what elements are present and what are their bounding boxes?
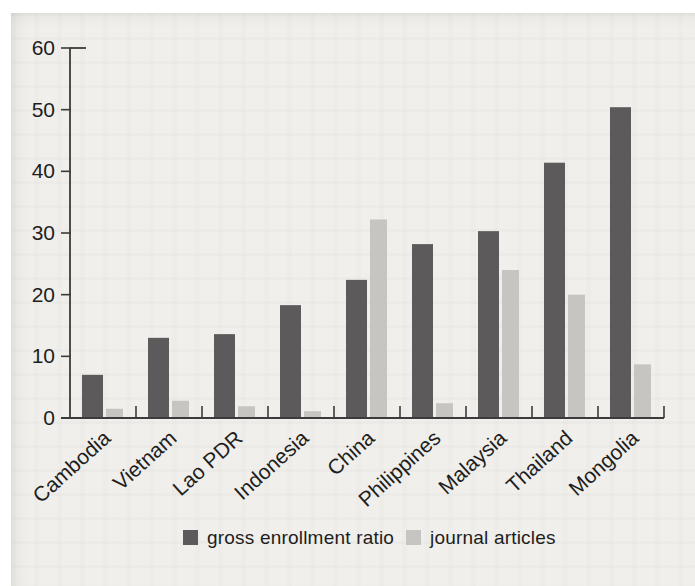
legend-label-journal-articles: journal articles <box>430 528 556 547</box>
bar-journal-articles-lao-pdr <box>238 406 255 418</box>
x-axis-label-thailand: Thailand <box>501 426 576 497</box>
y-axis-tick-label-20: 20 <box>32 283 55 306</box>
y-axis-tick-label-50: 50 <box>32 98 55 121</box>
bar-journal-articles-thailand <box>568 295 585 418</box>
scanned-figure: 0102030405060CambodiaVietnamLao PDRIndon… <box>0 0 695 586</box>
x-axis-label-malaysia: Malaysia <box>434 426 511 499</box>
bar-gross-enrollment-ratio-malaysia <box>478 231 499 418</box>
bar-journal-articles-vietnam <box>172 401 189 418</box>
legend-item-journal-articles: journal articles <box>406 528 556 546</box>
y-axis-tick-label-10: 10 <box>32 344 55 367</box>
bar-gross-enrollment-ratio-china <box>346 280 367 418</box>
legend-swatch-gross-enrollment-ratio <box>183 530 198 545</box>
y-axis-tick-label-30: 30 <box>32 221 55 244</box>
bar-journal-articles-indonesia <box>304 411 321 418</box>
bar-gross-enrollment-ratio-lao-pdr <box>214 334 235 418</box>
x-axis-label-indonesia: Indonesia <box>230 426 313 504</box>
y-axis-tick-label-60: 60 <box>32 36 55 59</box>
bar-gross-enrollment-ratio-cambodia <box>82 375 103 418</box>
bar-gross-enrollment-ratio-mongolia <box>610 107 631 418</box>
x-axis-label-cambodia: Cambodia <box>28 426 115 507</box>
bar-journal-articles-china <box>370 219 387 418</box>
bar-journal-articles-philippines <box>436 403 453 418</box>
bar-gross-enrollment-ratio-philippines <box>412 244 433 418</box>
bar-journal-articles-cambodia <box>106 409 123 418</box>
x-axis-label-mongolia: Mongolia <box>564 426 643 500</box>
bar-chart-svg: 0102030405060CambodiaVietnamLao PDRIndon… <box>0 0 695 524</box>
bar-journal-articles-malaysia <box>502 270 519 418</box>
bar-journal-articles-mongolia <box>634 364 651 418</box>
legend-swatch-journal-articles <box>406 530 421 545</box>
y-axis-tick-label-0: 0 <box>43 406 55 429</box>
x-axis-label-china: China <box>323 426 379 480</box>
bar-gross-enrollment-ratio-thailand <box>544 163 565 418</box>
legend-label-gross-enrollment-ratio: gross enrollment ratio <box>207 528 394 547</box>
legend-item-gross-enrollment-ratio: gross enrollment ratio <box>183 528 394 546</box>
bar-gross-enrollment-ratio-indonesia <box>280 305 301 418</box>
y-axis-tick-label-40: 40 <box>32 159 55 182</box>
bar-gross-enrollment-ratio-vietnam <box>148 338 169 418</box>
